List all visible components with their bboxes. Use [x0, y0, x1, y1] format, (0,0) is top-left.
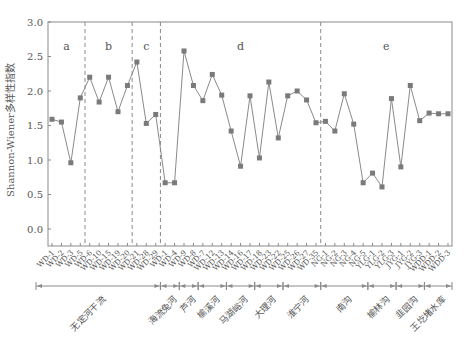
arrow-head: [192, 284, 197, 288]
data-point: [304, 97, 309, 102]
data-point: [219, 93, 224, 98]
data-point: [257, 155, 262, 160]
arrow-head: [199, 284, 204, 288]
group-label: 无定河干流: [68, 294, 108, 334]
group-label: 南沟: [333, 294, 354, 315]
data-point: [417, 118, 422, 123]
y-tick-label: 0.5: [27, 189, 43, 200]
arrow-head: [425, 284, 430, 288]
data-point: [78, 95, 83, 100]
group-label: 韭园沟: [393, 294, 420, 321]
data-line: [52, 51, 448, 187]
group-label: 榆林沟: [365, 294, 392, 321]
data-point: [87, 75, 92, 80]
data-point: [50, 117, 55, 122]
arrow-head: [315, 284, 320, 288]
data-point: [163, 180, 168, 185]
data-point: [229, 129, 234, 134]
data-point: [106, 75, 111, 80]
line-chart: 0.00.51.01.52.02.53.0WD-1WD-2WD-3WD-5WD-…: [0, 0, 473, 347]
arrow-head: [256, 284, 261, 288]
group-label: 芦河: [178, 294, 199, 315]
data-point: [295, 89, 300, 94]
arrow-head: [418, 284, 423, 288]
plot-frame: [48, 22, 452, 246]
arrow-head: [173, 284, 178, 288]
data-point: [116, 109, 121, 114]
data-point: [342, 91, 347, 96]
data-point: [427, 111, 432, 116]
data-point: [238, 164, 243, 169]
data-point: [380, 184, 385, 189]
y-tick-label: 1.5: [27, 120, 43, 131]
data-point: [361, 180, 366, 185]
arrow-head: [161, 284, 166, 288]
y-tick-label: 0.0: [27, 224, 43, 235]
data-point: [285, 93, 290, 98]
region-label: d: [237, 40, 244, 53]
arrow-head: [37, 284, 42, 288]
group-label: 榆溪河: [195, 294, 222, 321]
arrow-head: [446, 284, 451, 288]
region-label: a: [63, 40, 70, 53]
group-label: 大理河: [251, 294, 278, 321]
data-point: [314, 120, 319, 125]
arrow-head: [322, 284, 327, 288]
data-point: [144, 121, 149, 126]
arrow-head: [180, 284, 185, 288]
data-point: [370, 171, 375, 176]
data-point: [323, 119, 328, 124]
region-label: c: [143, 40, 149, 53]
group-label: 淮宁河: [284, 294, 311, 321]
data-point: [191, 83, 196, 88]
arrow-head: [154, 284, 159, 288]
data-point: [398, 164, 403, 169]
data-point: [266, 80, 271, 85]
data-point: [153, 112, 158, 117]
data-point: [134, 60, 139, 65]
data-point: [125, 83, 130, 88]
data-point: [210, 72, 215, 77]
arrow-head: [390, 284, 395, 288]
y-tick-label: 1.0: [27, 155, 43, 166]
data-point: [436, 111, 441, 116]
y-tick-label: 2.5: [27, 51, 43, 62]
arrow-head: [249, 284, 254, 288]
arrow-head: [227, 284, 232, 288]
region-label: e: [383, 40, 390, 53]
region-label: b: [105, 40, 112, 53]
arrow-head: [284, 284, 289, 288]
data-point: [408, 83, 413, 88]
data-point: [248, 93, 253, 98]
arrow-head: [397, 284, 402, 288]
group-label: 海流兔河: [146, 294, 179, 327]
data-point: [332, 129, 337, 134]
arrow-head: [277, 284, 282, 288]
y-tick-label: 2.0: [27, 86, 43, 97]
data-point: [389, 96, 394, 101]
arrow-head: [220, 284, 225, 288]
data-point: [351, 122, 356, 127]
data-point: [172, 180, 177, 185]
group-label: 马湖峪河: [217, 294, 250, 327]
data-point: [59, 120, 64, 125]
data-point: [68, 160, 73, 165]
data-point: [446, 111, 451, 116]
data-point: [97, 100, 102, 105]
data-point: [182, 48, 187, 53]
data-point: [276, 135, 281, 140]
data-point: [200, 98, 205, 103]
arrow-head: [362, 284, 367, 288]
arrow-head: [369, 284, 374, 288]
y-tick-label: 3.0: [27, 17, 43, 28]
